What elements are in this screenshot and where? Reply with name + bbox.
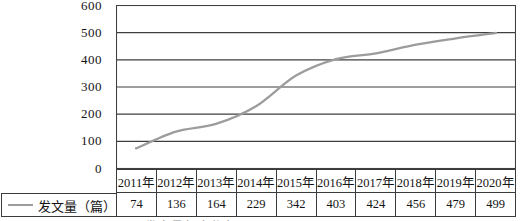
- value-cell: 424: [355, 193, 395, 216]
- value-cell: 342: [276, 193, 316, 216]
- year-cell: 2020年: [475, 170, 515, 193]
- line-chart-figure: 0100200300400500600 2011年2012年2013年2014年…: [0, 0, 523, 221]
- value-cell: 74: [117, 193, 156, 216]
- year-cell: 2012年: [156, 170, 196, 193]
- y-axis-tick-label: 500: [0, 25, 109, 41]
- series-line: [136, 33, 496, 148]
- y-axis-tick-label: 200: [0, 106, 109, 122]
- y-axis-tick-label: 600: [0, 0, 109, 14]
- value-cell: 479: [435, 193, 475, 216]
- value-cell: 499: [475, 193, 515, 216]
- y-axis-tick-label: 400: [0, 52, 109, 68]
- value-cell: 164: [196, 193, 236, 216]
- year-cell: 2014年: [236, 170, 276, 193]
- y-axis-tick-label: 300: [0, 79, 109, 95]
- data-table: 2011年2012年2013年2014年2015年2016年2017年2018年…: [116, 169, 516, 217]
- table-value-row: 74136164229342403424456479499: [117, 193, 515, 216]
- y-axis: 0100200300400500600: [0, 0, 109, 180]
- year-cell: 2017年: [355, 170, 395, 193]
- value-cell: 136: [156, 193, 196, 216]
- year-cell: 2018年: [395, 170, 435, 193]
- y-axis-tick-label: 0: [0, 161, 109, 177]
- legend: 发文量（篇）: [1, 193, 117, 217]
- legend-label: 发文量（篇）: [38, 196, 116, 215]
- legend-line-icon: [8, 204, 33, 206]
- year-cell: 2011年: [117, 170, 156, 193]
- table-year-row: 2011年2012年2013年2014年2015年2016年2017年2018年…: [117, 170, 515, 193]
- year-cell: 2019年: [435, 170, 475, 193]
- year-cell: 2015年: [276, 170, 316, 193]
- value-cell: 229: [236, 193, 276, 216]
- value-cell: 403: [316, 193, 356, 216]
- plot-area: [116, 5, 516, 169]
- y-axis-tick-label: 100: [0, 133, 109, 149]
- clipped-caption: 图 发文量年度分布: [128, 217, 408, 221]
- year-cell: 2016年: [316, 170, 356, 193]
- series-line-svg: [116, 5, 516, 169]
- value-cell: 456: [395, 193, 435, 216]
- year-cell: 2013年: [196, 170, 236, 193]
